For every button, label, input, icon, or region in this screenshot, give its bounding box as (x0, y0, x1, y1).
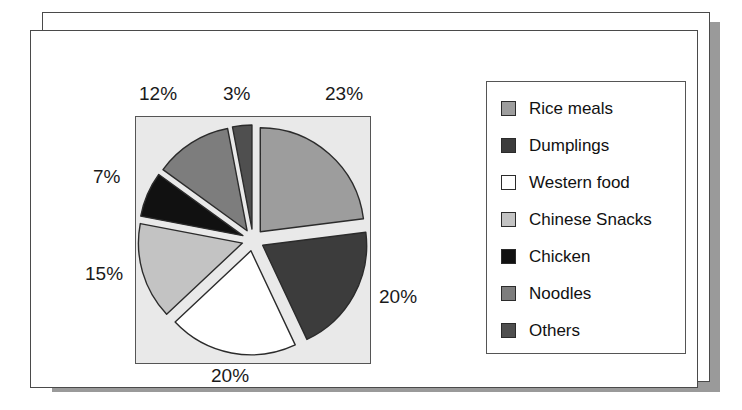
legend-swatch-icon (501, 249, 516, 264)
pie-label-chinese-snacks: 15% (85, 263, 123, 285)
pie-label-chicken: 7% (93, 166, 120, 188)
pie-label-noodles: 12% (139, 83, 177, 105)
legend-swatch-icon (501, 212, 516, 227)
pie-label-rice-meals: 23% (325, 83, 363, 105)
legend-item-label: Noodles (529, 284, 591, 304)
legend-item: Noodles (501, 275, 685, 312)
pie-label-dumplings: 20% (379, 286, 417, 308)
pie-slice (260, 128, 363, 232)
legend-item-label: Chicken (529, 247, 590, 267)
pie-label-others: 3% (223, 83, 250, 105)
legend-swatch-icon (501, 101, 516, 116)
legend-swatch-icon (501, 138, 516, 153)
legend-item-label: Dumplings (529, 136, 609, 156)
legend-item: Western food (501, 164, 685, 201)
legend-item-label: Rice meals (529, 99, 613, 119)
legend-item: Rice meals (501, 90, 685, 127)
legend-swatch-icon (501, 323, 516, 338)
legend-item: Dumplings (501, 127, 685, 164)
pie-slice-group (138, 125, 366, 355)
pie-chart-svg (127, 109, 379, 371)
legend-item-label: Chinese Snacks (529, 210, 652, 230)
legend-swatch-icon (501, 175, 516, 190)
legend-swatch-icon (501, 286, 516, 301)
legend-item-label: Western food (529, 173, 630, 193)
legend-item: Others (501, 312, 685, 349)
figure-root: 23% 3% 12% 7% 15% 20% 20% Rice mealsDump… (0, 0, 742, 410)
legend-item-label: Others (529, 321, 580, 341)
legend-item: Chicken (501, 238, 685, 275)
chart-legend: Rice mealsDumplingsWestern foodChinese S… (486, 81, 686, 354)
legend-item: Chinese Snacks (501, 201, 685, 238)
pie-label-western-food: 20% (211, 365, 249, 387)
card-front-frame: 23% 3% 12% 7% 15% 20% 20% Rice mealsDump… (30, 30, 698, 388)
